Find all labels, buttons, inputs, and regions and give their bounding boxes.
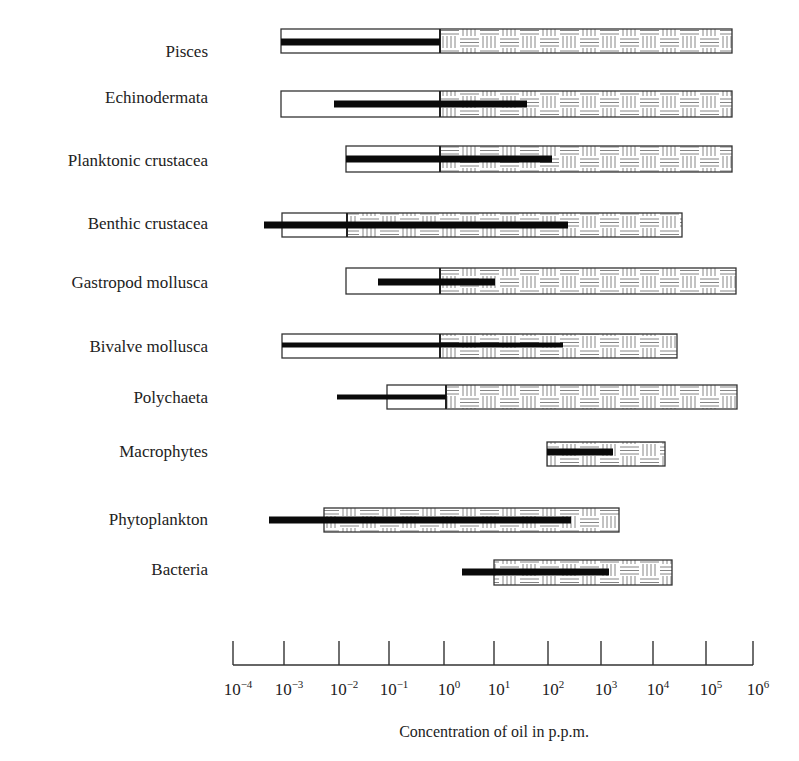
chart-row: Bacteria <box>151 560 672 585</box>
tick-label: 101 <box>488 678 511 699</box>
category-label: Echinodermata <box>105 88 208 107</box>
tick-label: 100 <box>438 678 461 699</box>
category-label: Benthic crustacea <box>88 214 209 233</box>
tick-label: 103 <box>595 678 618 699</box>
chart-row: Gastropod mollusca <box>72 268 736 294</box>
chart-row: Pisces <box>166 29 733 61</box>
chart-row: Phytoplankton <box>109 508 619 532</box>
effect-bar <box>378 279 495 286</box>
effect-bar <box>334 101 527 108</box>
chart-row: Benthic crustacea <box>88 213 682 237</box>
category-label: Macrophytes <box>119 442 208 461</box>
category-label: Phytoplankton <box>109 510 209 529</box>
x-axis: 10−410−310−210−1100101102103104105106Con… <box>224 641 770 741</box>
tick-label: 10−1 <box>380 678 409 699</box>
effect-bar <box>462 569 609 576</box>
chart-row: Polychaeta <box>133 385 737 409</box>
oil-toxicity-range-chart: PiscesEchinodermataPlanktonic crustaceaB… <box>0 0 799 761</box>
chart-row: Planktonic crustacea <box>68 146 732 172</box>
tick-label: 10−4 <box>224 678 253 699</box>
chart-rows: PiscesEchinodermataPlanktonic crustaceaB… <box>68 29 737 585</box>
range-box-hatched <box>440 29 732 53</box>
effect-bar <box>337 395 446 400</box>
tick-label: 105 <box>700 678 723 699</box>
tick-label: 10−3 <box>275 678 304 699</box>
range-box-hatched <box>446 385 737 409</box>
category-label: Bacteria <box>151 560 208 579</box>
category-label: Gastropod mollusca <box>72 273 209 292</box>
effect-bar <box>281 39 440 46</box>
chart-row: Echinodermata <box>105 88 732 117</box>
effect-bar <box>282 343 563 348</box>
effect-bar <box>269 517 571 524</box>
effect-bar <box>346 156 552 163</box>
effect-bar <box>547 449 613 456</box>
chart-row: Macrophytes <box>119 442 665 466</box>
category-label: Planktonic crustacea <box>68 151 209 170</box>
chart-row: Bivalve mollusca <box>89 334 677 358</box>
tick-label: 104 <box>647 678 670 699</box>
category-label: Bivalve mollusca <box>89 337 208 356</box>
effect-bar <box>264 222 568 229</box>
x-axis-title: Concentration of oil in p.p.m. <box>399 723 589 741</box>
category-label: Pisces <box>166 42 209 61</box>
tick-label: 10−2 <box>330 678 359 699</box>
category-label: Polychaeta <box>133 388 208 407</box>
tick-label: 102 <box>542 678 565 699</box>
tick-label: 106 <box>747 678 770 699</box>
